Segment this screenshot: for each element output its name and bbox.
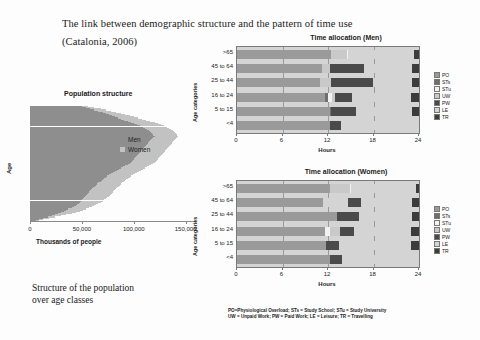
- pyramid-bar-men: [30, 123, 134, 124]
- women-segment-le: [342, 255, 419, 264]
- pyramid-bar-men: [30, 111, 98, 112]
- pyramid-bar-men: [30, 211, 64, 212]
- pyramid-bar-men: [30, 160, 133, 161]
- men-bar-row: 16 to 24: [237, 93, 419, 102]
- pyramid-bar-men: [30, 167, 121, 168]
- population-x-tick: [82, 221, 83, 224]
- women-category-label: 16 to 24: [211, 226, 233, 232]
- pyramid-bar-men: [30, 107, 86, 108]
- pyramid-bar-men: [30, 169, 119, 170]
- legend-swatch-icon: [434, 114, 440, 120]
- men-gridline: [283, 47, 284, 133]
- pyramid-bar-men: [30, 179, 103, 180]
- population-x-tick-label: 50,000: [73, 226, 91, 232]
- pyramid-bar-men: [30, 117, 118, 118]
- pyramid-bar-men: [30, 130, 149, 131]
- women-segment-le: [354, 227, 412, 236]
- men-segment-le: [374, 78, 413, 87]
- pyramid-bar-men: [30, 124, 137, 125]
- pyramid-bar-men: [30, 183, 97, 184]
- men-segment-po: [237, 107, 330, 116]
- women-legend-item: STu: [434, 220, 451, 226]
- pyramid-bar-men: [30, 115, 112, 116]
- men-x-tick-label: 24: [415, 137, 422, 143]
- women-chart-title: Time allocation (Women): [256, 168, 436, 175]
- women-x-tick-label: 12: [324, 271, 331, 277]
- men-segment-tr: [414, 50, 419, 59]
- women-x-tick: [327, 267, 328, 270]
- men-category-label: >65: [223, 49, 233, 55]
- pyramid-bar-men: [30, 106, 82, 107]
- legend-swatch-icon: [434, 206, 440, 212]
- men-chart-title: Time allocation (Men): [256, 34, 436, 41]
- pyramid-bar-men: [30, 113, 106, 114]
- men-segment-le: [341, 121, 419, 130]
- women-x-tick: [373, 267, 374, 270]
- population-x-tick-label: 100,000: [123, 226, 145, 232]
- women-category-label: >65: [223, 183, 233, 189]
- women-segment-po: [237, 255, 330, 264]
- men-segment-po: [237, 93, 325, 102]
- pyramid-bar-men: [30, 131, 150, 132]
- women-legend-label: UW: [442, 228, 450, 233]
- men-y-axis-label: Age categories: [192, 83, 198, 122]
- men-legend-item: PO: [434, 72, 451, 78]
- men-segment-le: [364, 64, 412, 73]
- women-legend-label: STu: [442, 221, 451, 226]
- men-category-label: 5 to 15: [215, 106, 233, 112]
- legend-swatch-icon: [434, 227, 440, 233]
- women-bar-row: 16 to 24: [237, 227, 419, 236]
- population-legend: MenWomen: [120, 136, 150, 156]
- pyramid-bar-men: [30, 170, 117, 171]
- men-legend-item: PW: [434, 100, 451, 106]
- women-segment-tr: [411, 227, 419, 236]
- legend-swatch-icon: [434, 107, 440, 113]
- women-x-tick-label: 0: [234, 271, 237, 277]
- men-segment-uw: [331, 50, 347, 59]
- women-x-axis-label: Hours: [236, 281, 418, 287]
- pyramid-bar-men: [30, 213, 58, 214]
- women-segment-po: [237, 227, 325, 236]
- legend-swatch-icon: [120, 137, 125, 142]
- women-x-tick: [236, 267, 237, 270]
- pyramid-bar-men: [30, 199, 82, 200]
- men-gridline: [328, 47, 329, 133]
- pyramid-bar-men: [30, 212, 61, 213]
- legend-footnote: PO=Physiological Overload; STs = Study S…: [228, 308, 438, 319]
- men-segment-tr: [412, 107, 419, 116]
- men-legend-item: STs: [434, 79, 451, 85]
- legend-swatch-icon: [434, 220, 440, 226]
- men-bar-row: 5 to 15: [237, 107, 419, 116]
- pyramid-bar-men: [30, 121, 128, 122]
- pyramid-bar-men: [30, 161, 132, 162]
- women-segment-tr: [412, 212, 419, 221]
- women-segment-pw: [330, 255, 341, 264]
- pyramid-bar-men: [30, 202, 80, 203]
- women-segment-pw: [348, 198, 361, 207]
- women-legend-label: TR: [442, 249, 449, 254]
- pyramid-bar-men: [30, 174, 109, 175]
- population-x-tick: [30, 221, 31, 224]
- pyramid-bar-men: [30, 214, 55, 215]
- legend-swatch-icon: [434, 72, 440, 78]
- pyramid-bar-men: [30, 207, 72, 208]
- men-segment-pw: [331, 107, 356, 116]
- women-x-tick: [418, 267, 419, 270]
- men-legend-item: STu: [434, 86, 451, 92]
- women-segment-le: [351, 184, 416, 193]
- legend-swatch-icon: [434, 234, 440, 240]
- pyramid-bar-men: [30, 181, 101, 182]
- pyramid-bar-men: [30, 156, 136, 157]
- women-segment-pw: [326, 241, 338, 250]
- pyramid-bar-men: [30, 203, 79, 204]
- footnote-line2: UW = Unpaid Work; PW = Paid Work; LE = L…: [228, 314, 438, 320]
- men-segment-le: [352, 93, 412, 102]
- women-segment-po: [237, 184, 330, 193]
- legend-swatch-icon: [434, 100, 440, 106]
- pyramid-bar-men: [30, 210, 66, 211]
- women-legend-item: PW: [434, 234, 451, 240]
- pyramid-bar-men: [30, 129, 147, 130]
- men-bar-row: 45 to 64: [237, 64, 419, 73]
- pyramid-bar-men: [30, 197, 84, 198]
- slide-title-line2: (Catalonia, 2006): [62, 36, 137, 47]
